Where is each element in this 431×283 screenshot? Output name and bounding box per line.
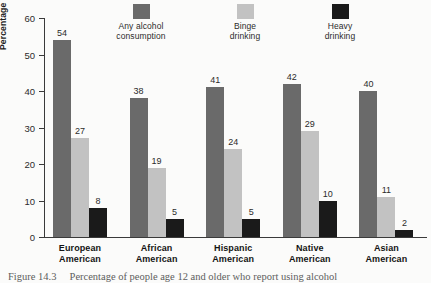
y-tick-label-10: 10 bbox=[24, 195, 35, 206]
bar-group: 40112 bbox=[359, 18, 413, 237]
y-tick-20: 20 bbox=[39, 164, 44, 165]
bar[interactable]: 42 bbox=[283, 84, 301, 237]
bar[interactable]: 27 bbox=[71, 138, 89, 237]
y-axis-title: Percentage engaging in behavior bbox=[0, 0, 8, 50]
bar-value-label: 10 bbox=[323, 189, 333, 199]
bar-value-label: 5 bbox=[172, 207, 177, 217]
bar-group: 422910 bbox=[283, 18, 337, 237]
figure-caption-text: Percentage of people age 12 and older wh… bbox=[70, 271, 338, 282]
y-tick-40: 40 bbox=[39, 91, 44, 92]
bar[interactable]: 11 bbox=[377, 197, 395, 237]
bar[interactable]: 10 bbox=[319, 201, 337, 238]
bar[interactable]: 2 bbox=[395, 230, 413, 237]
bar-value-label: 5 bbox=[249, 207, 254, 217]
y-tick-10: 10 bbox=[39, 201, 44, 202]
legend-swatch-heavy bbox=[332, 4, 349, 19]
y-tick-label-50: 50 bbox=[24, 49, 35, 60]
bar[interactable]: 29 bbox=[301, 131, 319, 237]
bar-value-label: 8 bbox=[95, 196, 100, 206]
bar-value-label: 24 bbox=[228, 137, 238, 147]
bar[interactable]: 5 bbox=[242, 219, 260, 237]
legend-swatch-binge bbox=[237, 4, 254, 19]
y-tick-30: 30 bbox=[39, 128, 44, 129]
y-axis-line bbox=[44, 18, 45, 238]
y-tick-label-60: 60 bbox=[24, 13, 35, 24]
bar-value-label: 2 bbox=[402, 218, 407, 228]
bar-group: 41245 bbox=[206, 18, 260, 237]
y-tick-label-20: 20 bbox=[24, 159, 35, 170]
bar[interactable]: 19 bbox=[148, 168, 166, 237]
y-tick-50: 50 bbox=[39, 55, 44, 56]
y-tick-label-30: 30 bbox=[24, 122, 35, 133]
bar-value-label: 41 bbox=[210, 75, 220, 85]
bar-value-label: 54 bbox=[57, 28, 67, 38]
bar-value-label: 42 bbox=[287, 72, 297, 82]
y-tick-label-0: 0 bbox=[30, 232, 35, 243]
bar[interactable]: 24 bbox=[224, 149, 242, 237]
bar-value-label: 19 bbox=[152, 156, 162, 166]
figure-caption: Figure 14.3 Percentage of people age 12 … bbox=[8, 270, 428, 283]
bar[interactable]: 40 bbox=[359, 91, 377, 237]
x-axis-category-label-line: Asian bbox=[341, 243, 431, 254]
bar-value-label: 40 bbox=[363, 79, 373, 89]
bar[interactable]: 41 bbox=[206, 87, 224, 237]
x-axis-category-label-line: American bbox=[341, 254, 431, 265]
figure-number: Figure 14.3 bbox=[8, 271, 56, 282]
bar[interactable]: 54 bbox=[53, 40, 71, 237]
bar-value-label: 11 bbox=[382, 185, 391, 195]
plot-area: 0102030405060 54278381954124542291040112 bbox=[44, 18, 427, 238]
bar[interactable]: 5 bbox=[166, 219, 184, 237]
y-tick-60: 60 bbox=[39, 18, 44, 19]
bar[interactable]: 8 bbox=[89, 208, 107, 237]
y-tick-0: 0 bbox=[39, 237, 44, 238]
bar[interactable]: 38 bbox=[130, 98, 148, 237]
figure-container: Any alcohol consumption Binge drinking H… bbox=[0, 0, 431, 283]
y-tick-label-40: 40 bbox=[24, 86, 35, 97]
legend-swatch-any-alcohol bbox=[133, 4, 150, 19]
bar-value-label: 29 bbox=[305, 119, 315, 129]
bar-group: 38195 bbox=[130, 18, 184, 237]
bar-group: 54278 bbox=[53, 18, 107, 237]
x-axis-line bbox=[44, 237, 427, 238]
bar-value-label: 38 bbox=[134, 86, 144, 96]
bar-value-label: 27 bbox=[75, 126, 85, 136]
x-axis-category-label: AsianAmerican bbox=[341, 243, 431, 265]
